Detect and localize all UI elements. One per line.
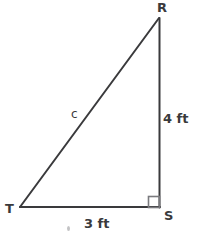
side-label-vertical-leg: 4 ft xyxy=(163,112,188,125)
vertex-label-r: R xyxy=(157,1,167,14)
vertex-label-t: T xyxy=(5,202,14,215)
side-label-hypotenuse: c xyxy=(71,108,78,120)
scan-speck-artifact xyxy=(67,226,70,231)
right-angle-square-icon xyxy=(149,197,160,208)
vertex-label-s: S xyxy=(164,209,173,222)
side-label-horizontal-leg: 3 ft xyxy=(84,217,109,230)
geometry-figure: R S T 4 ft 3 ft c xyxy=(0,0,208,243)
hypotenuse-line xyxy=(20,18,159,207)
